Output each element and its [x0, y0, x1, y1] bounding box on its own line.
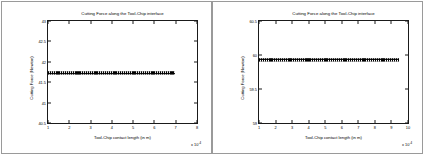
x-tick-mark-left [133, 120, 134, 123]
data-series-line-left [48, 73, 175, 74]
x-axis-label-left: Tool-Chip contact length (in m) [47, 135, 198, 140]
x-tick-label-left: 3 [89, 125, 91, 130]
x-tick-mark-left [69, 120, 70, 123]
x-tick-mark-top-left [154, 21, 155, 24]
x-tick-label-left: 6 [153, 125, 155, 130]
x-tick-mark-right [325, 120, 326, 123]
y-tick-mark-left [48, 61, 51, 62]
y-tick-label-right: 59 [253, 121, 257, 126]
x-tick-mark-right [259, 120, 260, 123]
x-tick-label-left: 8 [196, 125, 198, 130]
plot-area-right: 5959.56060.512345678910 [258, 20, 409, 124]
x-tick-mark-right [408, 120, 409, 123]
x-tick-mark-left [111, 120, 112, 123]
figure-panel-left: Cutting Force along the Tool-Chip interf… [1, 1, 212, 154]
x-tick-mark-left [154, 120, 155, 123]
x-tick-mark-left [175, 120, 176, 123]
y-tick-label-right: 60 [253, 53, 257, 58]
x-tick-mark-right [374, 120, 375, 123]
x-tick-label-right: 2 [274, 125, 276, 130]
x-tick-label-left: 1 [47, 125, 49, 130]
x-tick-mark-top-left [48, 21, 49, 24]
x-tick-mark-top-left [69, 21, 70, 24]
x-tick-mark-left [48, 120, 49, 123]
x-tick-mark-top-right [292, 21, 293, 24]
x-tick-mark-top-right [259, 21, 260, 24]
x-tick-label-left: 5 [132, 125, 134, 130]
x-tick-mark-top-right [358, 21, 359, 24]
x-tick-mark-right [292, 120, 293, 123]
x-tick-mark-left [90, 120, 91, 123]
y-tick-mark-left [48, 82, 51, 83]
x-axis-exponent-right: x 10-4 [402, 141, 412, 147]
x-tick-mark-right [391, 120, 392, 123]
x-tick-mark-top-left [133, 21, 134, 24]
chart-title-left: Cutting Force along the Tool-Chip interf… [47, 11, 198, 16]
screenshot-root: Cutting Force along the Tool-Chip interf… [0, 0, 425, 155]
y-tick-mark-left [48, 102, 51, 103]
y-tick-label-left: 43 [42, 19, 46, 24]
data-series-right [259, 58, 399, 61]
x-tick-mark-left [197, 120, 198, 123]
x-tick-label-right: 6 [341, 125, 343, 130]
x-tick-label-left: 2 [68, 125, 70, 130]
x-tick-mark-top-right [408, 21, 409, 24]
x-tick-mark-top-left [197, 21, 198, 24]
y-axis-label-right: Cutting Force (Newton) [240, 56, 245, 99]
x-tick-mark-top-left [111, 21, 112, 24]
exponent-power-right: -4 [409, 141, 412, 145]
x-tick-mark-right [275, 120, 276, 123]
y-tick-label-left: 42.5 [38, 39, 46, 44]
x-tick-mark-top-right [308, 21, 309, 24]
data-series-line-right [259, 59, 399, 60]
x-tick-label-left: 4 [111, 125, 113, 130]
x-tick-mark-top-right [325, 21, 326, 24]
x-tick-mark-top-right [374, 21, 375, 24]
x-tick-label-right: 3 [291, 125, 293, 130]
x-tick-mark-top-right [275, 21, 276, 24]
y-tick-mark-right-left [194, 41, 197, 42]
figure-panel-right: Cutting Force along the Tool-Chip interf… [212, 1, 423, 154]
x-tick-mark-right [308, 120, 309, 123]
y-tick-label-right: 59.5 [249, 87, 257, 92]
x-tick-mark-right [341, 120, 342, 123]
y-tick-label-left: 40.5 [38, 121, 46, 126]
x-tick-mark-top-right [391, 21, 392, 24]
y-tick-mark-right [259, 89, 262, 90]
y-tick-mark-right [259, 55, 262, 56]
y-tick-mark-right-right [405, 89, 408, 90]
y-tick-mark-right-left [194, 82, 197, 83]
y-tick-label-right: 60.5 [249, 19, 257, 24]
y-axis-label-left: Cutting Force (Newton) [29, 56, 34, 99]
x-tick-label-left: 7 [175, 125, 177, 130]
x-tick-label-right: 7 [357, 125, 359, 130]
y-tick-label-left: 41.5 [38, 80, 46, 85]
y-tick-mark-left [48, 41, 51, 42]
y-tick-label-left: 42 [42, 59, 46, 64]
x-tick-label-right: 9 [390, 125, 392, 130]
exponent-power-left: -4 [198, 141, 201, 145]
chart-title-right: Cutting Force along the Tool-Chip interf… [258, 11, 409, 16]
x-tick-mark-top-left [175, 21, 176, 24]
x-tick-label-right: 5 [324, 125, 326, 130]
x-tick-label-right: 8 [374, 125, 376, 130]
data-series-left [48, 72, 175, 75]
x-tick-label-right: 1 [258, 125, 260, 130]
x-axis-label-right: Tool-Chip contact length (in m) [258, 135, 409, 140]
y-tick-label-left: 41 [42, 100, 46, 105]
plot-area-left: 40.54141.54242.54312345678 [47, 20, 198, 124]
x-axis-exponent-left: x 10-4 [191, 141, 201, 147]
x-tick-mark-right [358, 120, 359, 123]
y-tick-mark-right-right [405, 55, 408, 56]
x-tick-mark-top-right [341, 21, 342, 24]
x-tick-label-right: 10 [406, 125, 410, 130]
x-tick-label-right: 4 [308, 125, 310, 130]
y-tick-mark-right-left [194, 102, 197, 103]
y-tick-mark-right-left [194, 61, 197, 62]
x-tick-mark-top-left [90, 21, 91, 24]
